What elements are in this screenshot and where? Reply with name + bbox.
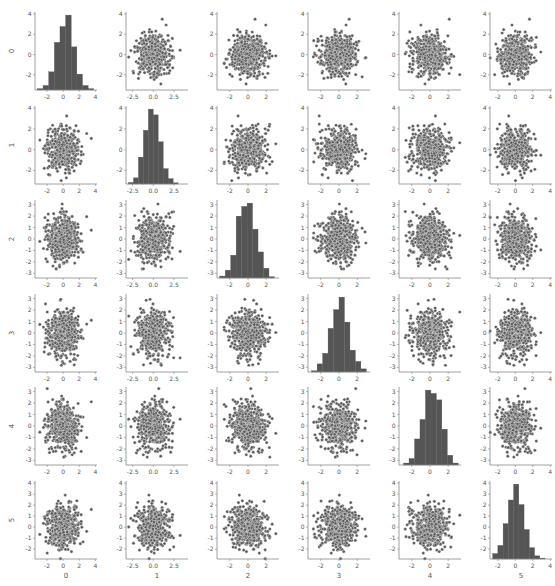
y-tick-label: 2 [483, 212, 487, 219]
histogram-bar [138, 157, 143, 184]
y-tick-label: -3 [208, 363, 214, 370]
x-tick-label: 0 [337, 562, 341, 569]
x-tick-label: 4 [548, 281, 552, 288]
y-tick-label: 1 [392, 224, 396, 231]
scatter-panel-1-vs-4: -2024-202 [390, 104, 462, 194]
y-tick-label: 0 [28, 329, 32, 336]
x-tick-label: 4 [93, 93, 97, 100]
scatter-panel-1-vs-5: -2024-2024 [481, 104, 553, 194]
y-tick-label: 2 [28, 212, 32, 219]
histogram-bar [236, 216, 241, 278]
y-tick-label: -2 [117, 258, 123, 265]
y-tick-label: 1 [392, 512, 396, 519]
y-tick-label: -2 [481, 545, 487, 552]
y-tick-label: 0 [483, 422, 487, 429]
y-tick-label: 1 [28, 318, 32, 325]
y-tick-label: 0 [119, 422, 123, 429]
x-tick-label: 2 [531, 468, 535, 475]
y-tick-label: 2 [301, 501, 305, 508]
histogram-bar [247, 203, 252, 278]
histogram-bar [71, 47, 77, 90]
y-tick-label: 4 [392, 10, 396, 17]
x-tick-label: 4 [548, 375, 552, 382]
scatter-panel-3-vs-2: -3-2-10123-202 [208, 294, 279, 382]
scatter-panel-0-vs-1: -2024-2.50.02.5 [117, 10, 188, 100]
histogram-bar [420, 419, 425, 465]
y-tick-label: -1 [390, 534, 396, 541]
scatter-panel-1-vs-0: -2024-20241 [8, 104, 97, 194]
y-tick-label: -3 [26, 456, 32, 463]
y-tick-label: -1 [208, 433, 214, 440]
scatter-panel-4-vs-5: -3-2-10123-2024 [481, 387, 553, 475]
y-tick-label: 3 [119, 201, 123, 208]
y-tick-label: 4 [119, 479, 123, 486]
histogram-bar [415, 439, 420, 465]
y-tick-label: -3 [299, 363, 305, 370]
y-tick-label: 1 [483, 318, 487, 325]
y-tick-label: -2 [117, 71, 123, 78]
x-tick-label: 4 [93, 468, 97, 475]
x-tick-label: -2.5 [127, 187, 139, 194]
x-tick-label: 0.0 [149, 281, 159, 288]
y-tick-label: -1 [299, 246, 305, 253]
y-tick-label: -1 [26, 433, 32, 440]
histogram-panel-0: -2024-20240 [8, 10, 97, 100]
y-tick-label: 0 [483, 146, 487, 153]
x-tick-label: 2 [355, 187, 359, 194]
x-tick-label: 0 [61, 281, 65, 288]
x-tick-label: 0 [61, 375, 65, 382]
y-tick-label: 0 [28, 51, 32, 58]
y-tick-label: 0 [301, 146, 305, 153]
y-tick-label: 1 [28, 224, 32, 231]
x-axis-label: 5 [519, 572, 523, 580]
y-tick-label: 4 [483, 479, 487, 486]
x-tick-label: -2 [409, 375, 415, 382]
x-tick-label: 2 [355, 468, 359, 475]
scatter-panel-4-vs-0: -3-2-10123-20244 [8, 387, 97, 475]
y-tick-label: 4 [392, 104, 396, 111]
y-tick-label: 2 [28, 501, 32, 508]
y-tick-label: 2 [301, 399, 305, 406]
x-tick-label: -2 [227, 375, 233, 382]
y-tick-label: 1 [210, 512, 214, 519]
x-tick-label: 2.5 [169, 562, 179, 569]
scatter-panel-3-vs-0: -3-2-10123-20243 [8, 294, 97, 382]
x-tick-label: -2 [44, 93, 50, 100]
y-tick-label: 4 [301, 104, 305, 111]
y-tick-label: -1 [390, 340, 396, 347]
y-tick-label: 1 [301, 224, 305, 231]
x-tick-label: -2 [318, 93, 324, 100]
histogram-bar [66, 15, 72, 90]
y-tick-label: 0 [301, 235, 305, 242]
y-tick-label: 3 [392, 295, 396, 302]
y-tick-label: 3 [392, 201, 396, 208]
y-tick-label: -1 [117, 246, 123, 253]
y-tick-label: 3 [28, 388, 32, 395]
y-tick-label: -2 [117, 445, 123, 452]
y-tick-label: 2 [119, 212, 123, 219]
histogram-bar [334, 310, 339, 372]
y-tick-label: 2 [119, 306, 123, 313]
x-tick-label: 0 [246, 562, 250, 569]
x-tick-label: 0.0 [149, 375, 159, 382]
histogram-bar [519, 505, 524, 559]
y-tick-label: -3 [208, 456, 214, 463]
y-tick-label: -2 [481, 258, 487, 265]
y-tick-label: -2 [481, 352, 487, 359]
histogram-bar [83, 85, 89, 90]
y-tick-label: -2 [481, 445, 487, 452]
y-tick-label: 3 [28, 295, 32, 302]
y-tick-label: -3 [117, 456, 123, 463]
y-tick-label: 1 [210, 411, 214, 418]
x-tick-label: -2 [227, 187, 233, 194]
histogram-bar [242, 206, 247, 278]
y-tick-label: -2 [26, 545, 32, 552]
histogram-bar [323, 353, 328, 372]
x-tick-label: 2 [531, 93, 535, 100]
histogram-bar [143, 130, 148, 184]
y-tick-label: 3 [301, 388, 305, 395]
y-tick-label: -2 [208, 352, 214, 359]
y-tick-label: 1 [210, 224, 214, 231]
x-axis-label: 1 [155, 572, 159, 580]
x-tick-label: -2 [495, 281, 501, 288]
